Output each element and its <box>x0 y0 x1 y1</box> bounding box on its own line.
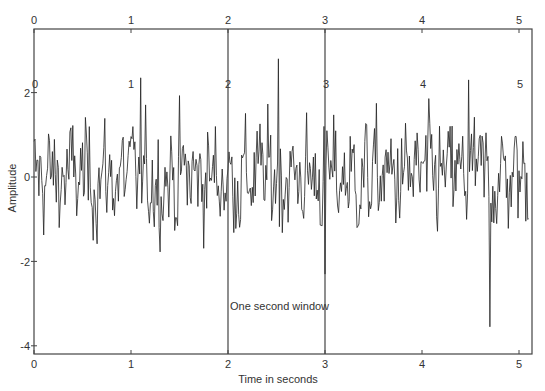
y-axis-title: Amplitude <box>6 164 18 213</box>
y-tick-m2: -2 <box>20 256 30 268</box>
inner-label-4: 4 <box>420 78 426 90</box>
inner-label-5: 5 <box>517 78 523 90</box>
bottom-tick-4: 4 <box>419 358 425 370</box>
bottom-tick-1: 1 <box>128 358 134 370</box>
bottom-tick-5: 5 <box>516 358 522 370</box>
inner-label-3: 3 <box>323 78 329 90</box>
bottom-tick-3: 3 <box>322 358 328 370</box>
inner-second-labels: 0 1 2 3 4 5 <box>32 78 523 90</box>
inner-label-2: 2 <box>225 78 231 90</box>
bottom-x-tick-labels: 0 1 2 3 4 5 <box>31 358 522 370</box>
y-tick-m4: -4 <box>20 340 30 352</box>
top-tick-0: 0 <box>31 14 37 26</box>
window-annotation: One second window <box>230 300 329 312</box>
signal-line <box>34 59 529 327</box>
inner-label-1: 1 <box>128 78 134 90</box>
y-tick-2: 2 <box>24 87 30 99</box>
top-tick-1: 1 <box>128 14 134 26</box>
signal-chart: 0 1 2 3 4 5 0 1 2 3 4 5 0 1 2 3 4 5 2 0 … <box>0 0 545 391</box>
y-tick-0: 0 <box>24 171 30 183</box>
top-tick-2: 2 <box>225 14 231 26</box>
top-tick-5: 5 <box>516 14 522 26</box>
inner-label-0: 0 <box>32 78 38 90</box>
y-tick-labels: 2 0 -2 -4 <box>20 87 30 352</box>
top-tick-3: 3 <box>322 14 328 26</box>
top-x-tick-labels: 0 1 2 3 4 5 <box>31 14 522 26</box>
bottom-tick-2: 2 <box>225 358 231 370</box>
x-axis-title: Time in seconds <box>238 373 318 385</box>
top-tick-4: 4 <box>419 14 425 26</box>
bottom-tick-0: 0 <box>31 358 37 370</box>
